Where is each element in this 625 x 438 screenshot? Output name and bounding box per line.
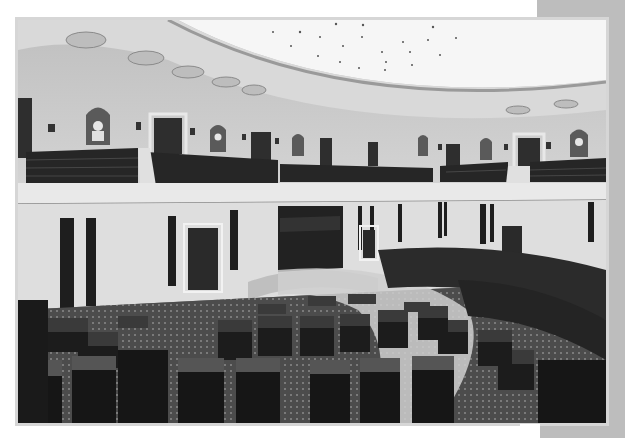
chamber-illustration [18, 20, 606, 423]
chamber-photograph: Black-and-white photograph of a semicirc… [18, 20, 606, 423]
rostrum [278, 206, 343, 272]
frame-gap [520, 424, 540, 438]
